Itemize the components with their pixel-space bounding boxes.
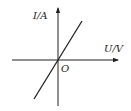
- origin-label: O: [61, 63, 69, 74]
- iu-graph: I/A U/V O: [0, 0, 131, 111]
- x-axis-label: U/V: [104, 43, 125, 54]
- y-axis-label: I/A: [32, 10, 48, 21]
